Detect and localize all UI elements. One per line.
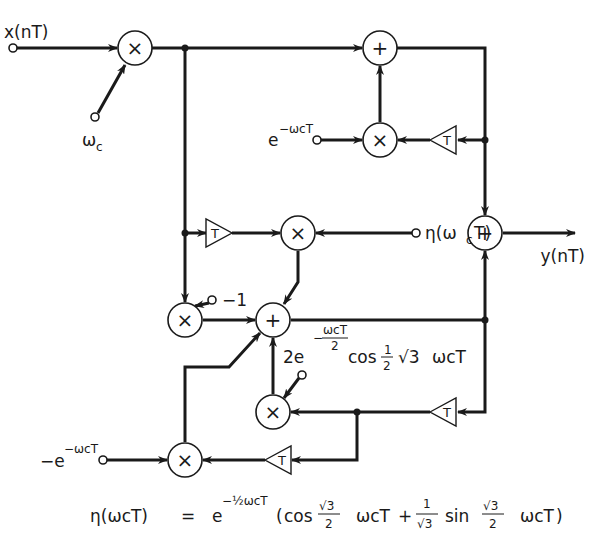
delay-icon: T [442, 405, 451, 420]
junction-dot [482, 317, 489, 324]
equation-wct1: ωcT [356, 506, 391, 526]
wire-m6-to-a2 [185, 333, 260, 442]
junction-dot [482, 137, 489, 144]
delay-d2: T [206, 219, 232, 247]
equation-rparen: ) [556, 506, 563, 526]
input-terminal-eta [412, 229, 420, 237]
sqrt3: √3 [398, 347, 420, 367]
wire-carrier-to-m1 [98, 65, 125, 113]
delay-d3: T [430, 398, 456, 426]
wire-midcoeff-to-m5 [284, 378, 299, 398]
junction-dot [182, 230, 189, 237]
equation-lhs: η(ωcT) [90, 506, 148, 526]
equation-lparen: ( [276, 506, 283, 526]
block-diagram: × + × + × × + × × T T T [0, 0, 610, 547]
multiply-icon: × [177, 308, 194, 332]
equation-frac3-num: √3 [483, 499, 498, 513]
exponent: −ωcT [64, 442, 99, 456]
input-terminal-minus-one [208, 296, 216, 304]
multiply-icon: × [177, 448, 194, 472]
equation-e: e [212, 506, 222, 526]
multiply-icon: × [127, 36, 144, 60]
omega-symbol: ω [82, 130, 96, 150]
multiply-icon: × [372, 128, 389, 152]
output-label: y(nT) [541, 246, 585, 266]
eta-close: T) [473, 223, 491, 243]
adder-a2: + [256, 303, 290, 337]
subscript-c: c [466, 233, 473, 247]
delay-d1: T [430, 126, 456, 154]
bottom-coeff-label: −e −ωcT [40, 442, 99, 471]
multiply-icon: × [290, 221, 307, 245]
multiply-icon: × [265, 400, 282, 424]
wires [17, 48, 575, 460]
adder-a1: + [363, 31, 397, 65]
delay-d4: T [265, 446, 291, 474]
input-terminal-carrier [91, 113, 99, 121]
junction-dot [354, 409, 361, 416]
wct-text: ωcT [432, 347, 467, 367]
carrier-label: ω c [82, 130, 103, 154]
equation-frac2-den: √3 [417, 517, 432, 531]
input-label: x(nT) [4, 22, 48, 42]
input-terminal-mid-coeff [298, 371, 306, 379]
multiplier-m6: × [168, 443, 202, 477]
plus-icon: + [265, 308, 282, 332]
minus-one-label: −1 [222, 290, 247, 310]
eta-equation: η(ωcT) = e −½ωcT ( cos √3 2 ωcT + 1 √3 s… [90, 494, 563, 531]
wire-minus1-to-m4 [195, 303, 209, 306]
input-terminal-top-coeff [313, 136, 321, 144]
delay-icon: T [442, 133, 451, 148]
neg-e-symbol: −e [40, 451, 65, 471]
equation-wct2: ωcT [520, 506, 555, 526]
exp-denominator: 2 [331, 339, 339, 353]
equation-cos: cos [284, 506, 313, 526]
mid-coeff-label: 2e − ωcT 2 cos 1 2 √3 ωcT [283, 323, 467, 373]
exponent: −ωcT [279, 122, 314, 136]
input-terminal-bottom-coeff [99, 456, 107, 464]
exp-numerator: ωcT [323, 323, 348, 337]
frac-num: 1 [384, 343, 392, 357]
e-symbol: e [268, 130, 278, 150]
plus-icon: + [372, 36, 389, 60]
equation-equals: = [181, 506, 195, 526]
subscript-c: c [96, 140, 103, 154]
top-coeff-label: e −ωcT [268, 122, 314, 150]
frac-den: 2 [383, 359, 391, 373]
input-terminal-x [9, 44, 17, 52]
wire-m3-to-a2 [284, 251, 298, 304]
junction-dot [182, 45, 189, 52]
delay-icon: T [277, 453, 286, 468]
wire-a1-to-aout [397, 48, 485, 215]
multiplier-m3: × [281, 216, 315, 250]
exp-minus: − [313, 331, 323, 345]
equation-plus: + [398, 506, 412, 526]
equation-exponent: −½ωcT [222, 494, 268, 508]
equation-frac2-num: 1 [423, 497, 431, 511]
two-e: 2e [283, 347, 304, 367]
wire-j5-to-d4 [292, 412, 357, 460]
multiplier-m5: × [256, 395, 290, 429]
cos-text: cos [348, 347, 377, 367]
delay-icon: T [210, 226, 219, 241]
multiplier-m2: × [363, 123, 397, 157]
equation-frac1-den: 2 [325, 517, 333, 531]
eta-symbol: η(ω [425, 223, 457, 243]
equation-frac1-num: √3 [319, 499, 334, 513]
multiplier-m4: × [168, 303, 202, 337]
equation-sin: sin [445, 506, 469, 526]
multiplier-m1: × [118, 31, 152, 65]
equation-frac3-den: 2 [489, 517, 497, 531]
